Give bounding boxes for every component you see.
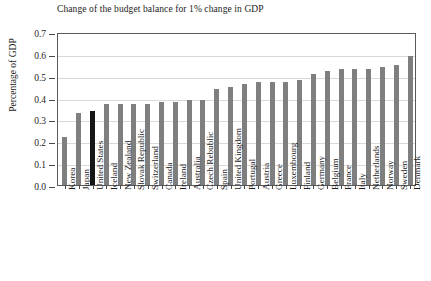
gridline xyxy=(58,121,415,122)
x-tick xyxy=(300,185,301,189)
y-tick-label: 0.3 xyxy=(34,116,46,126)
y-tick-label: 0.0 xyxy=(34,182,46,192)
y-tick xyxy=(49,187,55,188)
x-tick xyxy=(162,185,163,189)
x-tick xyxy=(106,185,107,189)
x-tick xyxy=(272,185,273,189)
y-tick xyxy=(49,78,55,79)
x-tick xyxy=(382,185,383,189)
x-tick xyxy=(134,185,135,189)
x-tick xyxy=(410,185,411,189)
x-tick xyxy=(79,185,80,189)
x-tick-label: Iceland xyxy=(109,163,119,190)
y-tick xyxy=(49,34,55,35)
x-tick-label: Netherlands xyxy=(371,146,381,190)
x-tick xyxy=(231,185,232,189)
y-tick xyxy=(49,56,55,57)
x-tick-label: Germany xyxy=(316,156,326,190)
gridline xyxy=(58,100,415,101)
x-tick-label: Australia xyxy=(192,156,202,190)
chart-figure: Change of the budget balance for 1% chan… xyxy=(0,0,431,281)
x-tick-label: Sweden xyxy=(399,161,409,190)
chart-title: Change of the budget balance for 1% chan… xyxy=(57,4,417,14)
x-tick-label: Denmark xyxy=(412,156,422,190)
x-tick xyxy=(120,185,121,189)
y-tick xyxy=(49,143,55,144)
x-tick xyxy=(355,185,356,189)
bar xyxy=(352,69,357,185)
x-tick-label: Belgium xyxy=(330,158,340,190)
x-tick xyxy=(258,185,259,189)
x-tick xyxy=(189,185,190,189)
y-tick-label: 0.6 xyxy=(34,51,46,61)
y-tick-label: 0.5 xyxy=(34,73,46,83)
x-tick xyxy=(244,185,245,189)
gridline xyxy=(58,78,415,79)
x-tick-label: Portugal xyxy=(247,159,257,190)
x-tick-label: Ireland xyxy=(178,164,188,190)
y-tick xyxy=(49,121,55,122)
x-tick-label: France xyxy=(343,165,353,190)
x-tick-label: Finland xyxy=(302,162,312,190)
y-tick-label: 0.4 xyxy=(34,95,46,105)
x-tick xyxy=(396,185,397,189)
x-tick-label: Slovak Republic xyxy=(136,129,146,190)
x-tick-label: Canada xyxy=(164,162,174,190)
x-tick xyxy=(313,185,314,189)
y-tick-label: 0.2 xyxy=(34,138,46,148)
x-tick-label: Italy xyxy=(357,173,367,190)
y-axis-label: Percentage of GDP xyxy=(8,10,18,140)
x-tick-label: Spain xyxy=(219,169,229,190)
x-tick-label: Switzerland xyxy=(150,146,160,190)
y-tick xyxy=(49,100,55,101)
x-tick xyxy=(65,185,66,189)
x-tick-label: Korea xyxy=(67,168,77,190)
x-tick-label: Greece xyxy=(274,164,284,190)
x-tick xyxy=(217,185,218,189)
x-tick-label: Austria xyxy=(261,163,271,190)
x-tick xyxy=(93,185,94,189)
x-tick xyxy=(175,185,176,189)
x-tick-label: Luxembourg xyxy=(288,143,298,190)
x-tick-label: United States xyxy=(95,141,105,190)
y-tick-label: 0.7 xyxy=(34,29,46,39)
x-tick-label: United Kingdom xyxy=(233,128,243,190)
x-tick-label: Czech Rebublic xyxy=(205,132,215,190)
x-tick-label: Norway xyxy=(385,160,395,190)
x-tick xyxy=(203,185,204,189)
x-tick xyxy=(148,185,149,189)
x-tick xyxy=(286,185,287,189)
y-tick-label: 0.1 xyxy=(34,160,46,170)
x-tick xyxy=(341,185,342,189)
x-tick xyxy=(327,185,328,189)
gridline xyxy=(58,56,415,57)
x-tick-label: Japan xyxy=(81,169,91,190)
x-tick xyxy=(369,185,370,189)
y-tick xyxy=(49,165,55,166)
x-tick-label: New Zealand xyxy=(123,141,133,190)
